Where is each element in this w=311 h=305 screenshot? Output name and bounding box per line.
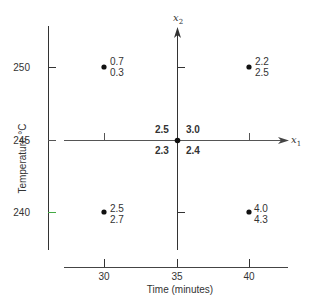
point-30-250 bbox=[101, 64, 106, 69]
point-40-250-response-2: 2.5 bbox=[255, 67, 269, 78]
x-tick-label-30: 30 bbox=[92, 271, 116, 282]
x-axis-label: Time (minutes) bbox=[130, 284, 230, 295]
point-30-250-response-1: 0.7 bbox=[110, 56, 124, 67]
point-40-240-response-1: 4.0 bbox=[254, 203, 268, 214]
point-40-240 bbox=[246, 209, 251, 214]
x2-axis-label: x2 bbox=[173, 12, 183, 28]
point-30-240-response-1: 2.5 bbox=[110, 203, 124, 214]
point-30-240 bbox=[101, 209, 106, 214]
point-40-250 bbox=[246, 64, 251, 69]
y-tick-label-240: 240 bbox=[0, 207, 30, 218]
center-response-lower-left: 2.3 bbox=[155, 145, 169, 156]
y-tick-label-250: 250 bbox=[0, 62, 30, 73]
center-response-upper-right: 3.0 bbox=[186, 124, 200, 135]
point-30-240-response-2: 2.7 bbox=[110, 214, 124, 225]
y-axis-label: Temperature °C bbox=[17, 109, 28, 209]
point-40-250-response-1: 2.2 bbox=[255, 56, 269, 67]
x-tick-label-35: 35 bbox=[165, 271, 189, 282]
x-tick-label-40: 40 bbox=[237, 271, 261, 282]
point-30-250-response-2: 0.3 bbox=[110, 67, 124, 78]
x1-axis-label: x1 bbox=[291, 134, 301, 150]
center-response-upper-left: 2.5 bbox=[155, 124, 169, 135]
center-response-lower-right: 2.4 bbox=[186, 145, 200, 156]
point-center bbox=[175, 138, 181, 144]
point-40-240-response-2: 4.3 bbox=[254, 214, 268, 225]
